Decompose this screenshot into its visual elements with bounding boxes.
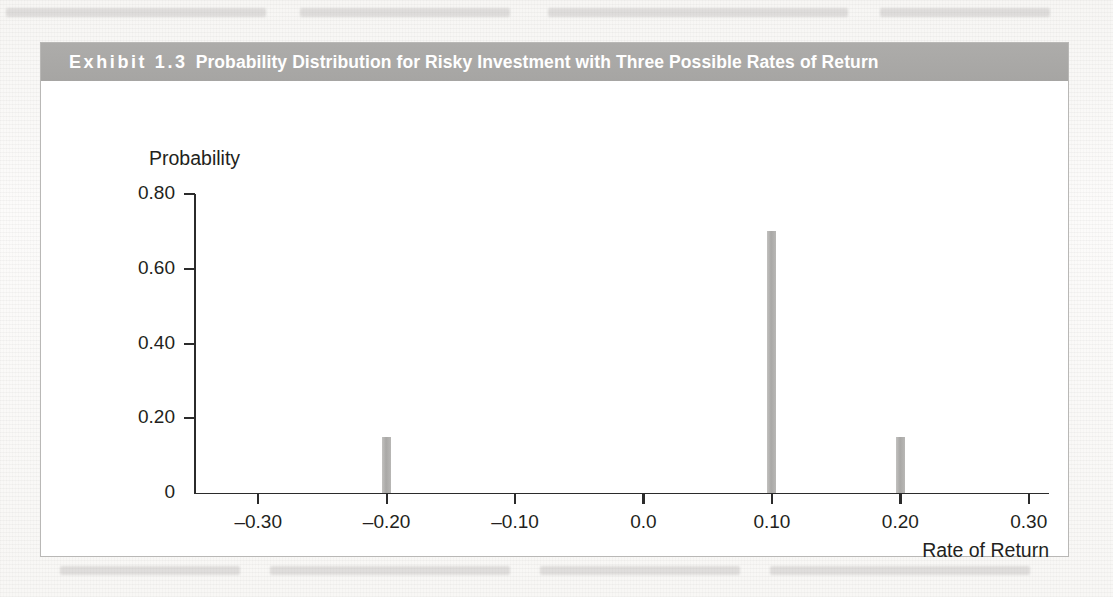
bar [382, 437, 391, 493]
y-axis-title: Probability [149, 147, 240, 170]
y-axis-tick-label: 0.40 [89, 332, 175, 354]
y-axis-tick [184, 193, 195, 195]
bar [896, 437, 905, 493]
x-axis-tick [386, 493, 388, 504]
exhibit-frame: Exhibit 1.3Probability Distribution for … [40, 42, 1069, 557]
y-axis-tick-label: 0.60 [89, 257, 175, 279]
exhibit-title-bar: Exhibit 1.3Probability Distribution for … [41, 43, 1068, 81]
y-axis-tick-label: 0.20 [89, 406, 175, 428]
x-axis-tick-label: 0.0 [588, 511, 698, 533]
y-axis-tick [184, 268, 195, 270]
x-axis-line [194, 493, 1049, 495]
x-axis-tick-label: –0.30 [203, 511, 313, 533]
x-axis-tick [771, 493, 773, 504]
y-axis-tick [184, 417, 195, 419]
exhibit-label: Exhibit 1.3 [69, 52, 188, 72]
x-axis-title: Rate of Return [801, 539, 1049, 562]
x-axis-tick-label: 0.20 [845, 511, 955, 533]
x-axis-tick [257, 493, 259, 504]
x-axis-tick [1028, 493, 1030, 504]
x-axis-tick-label: –0.10 [460, 511, 570, 533]
y-axis-tick-label: 0.80 [89, 182, 175, 204]
y-axis-tick [184, 343, 195, 345]
exhibit-title: Exhibit 1.3Probability Distribution for … [69, 52, 879, 73]
probability-distribution-chart: Probability Rate of Return 00.200.400.60… [41, 81, 1070, 558]
x-axis-tick [642, 493, 644, 504]
x-axis-tick [514, 493, 516, 504]
plot-area: Probability Rate of Return 00.200.400.60… [41, 81, 1068, 556]
x-axis-tick-label: –0.20 [332, 511, 442, 533]
y-axis-tick-label: 0 [89, 481, 175, 503]
x-axis-tick-label: 0.10 [717, 511, 827, 533]
x-axis-tick-label: 0.30 [974, 511, 1084, 533]
exhibit-caption: Probability Distribution for Risky Inves… [196, 52, 879, 72]
bar [767, 231, 776, 493]
x-axis-tick [899, 493, 901, 504]
